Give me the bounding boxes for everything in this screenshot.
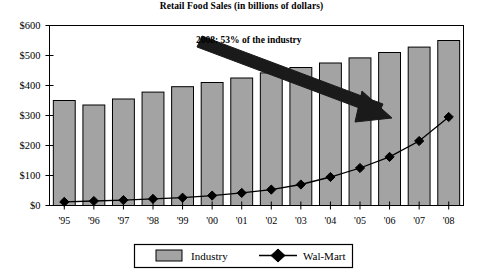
- industry-bar: [53, 101, 75, 206]
- x-tick-label: '02: [265, 215, 277, 226]
- y-tick-label: $300: [20, 110, 41, 121]
- retail-food-sales-chart: Retail Food Sales (in billions of dollar…: [0, 0, 483, 275]
- x-tick-label: '96: [88, 215, 100, 226]
- industry-bar: [142, 92, 164, 205]
- chart-plot-area: $0$100$200$300$400$500$600 '95'96'97'98'…: [0, 0, 483, 275]
- industry-bar: [231, 78, 253, 206]
- industry-bar: [172, 87, 194, 206]
- legend-swatch-industry: [156, 250, 182, 261]
- x-tick-label: '01: [236, 215, 248, 226]
- industry-bar: [349, 58, 371, 206]
- x-tick-label: '04: [325, 215, 337, 226]
- y-tick-label: $0: [30, 200, 41, 211]
- x-tick-label: '08: [443, 215, 455, 226]
- x-tick-label: '99: [177, 215, 189, 226]
- x-tick-label: '03: [295, 215, 307, 226]
- x-tick-label: '95: [58, 215, 70, 226]
- industry-bar: [379, 53, 401, 206]
- industry-bar: [408, 47, 430, 205]
- chart-legend: Industry Wal-Mart: [135, 245, 353, 268]
- x-tick-label: '05: [354, 215, 366, 226]
- y-tick-label: $100: [20, 170, 41, 181]
- plot-frame: [50, 26, 464, 206]
- x-tick-label: '07: [413, 215, 425, 226]
- industry-bar: [83, 105, 105, 206]
- x-tick-label: '00: [206, 215, 218, 226]
- y-tick-label: $500: [20, 50, 41, 61]
- industry-share-callout-text: 2008: 53% of the industry: [196, 35, 302, 45]
- legend-label-industry: Industry: [191, 250, 228, 262]
- y-tick-label: $400: [20, 80, 41, 91]
- x-tick-label: '97: [118, 215, 130, 226]
- y-tick-label: $600: [20, 20, 41, 31]
- y-axis: $0$100$200$300$400$500$600: [20, 20, 54, 211]
- industry-bar: [201, 83, 223, 206]
- x-tick-label: '98: [147, 215, 159, 226]
- industry-bar: [112, 99, 134, 206]
- legend-label-walmart: Wal-Mart: [303, 250, 346, 262]
- y-tick-label: $200: [20, 140, 41, 151]
- x-tick-label: '06: [384, 215, 396, 226]
